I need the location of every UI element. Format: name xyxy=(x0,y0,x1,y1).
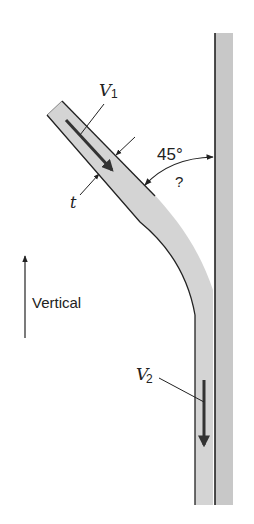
v2-label: V 2 xyxy=(136,364,153,386)
svg-text:?: ? xyxy=(175,173,183,190)
jet-deflection-diagram: V 1 t 45° ? Vertical V 2 xyxy=(0,0,254,524)
svg-text:45°: 45° xyxy=(157,145,183,164)
svg-text:Vertical: Vertical xyxy=(32,294,81,311)
svg-text:1: 1 xyxy=(111,87,118,101)
vertical-reference: Vertical xyxy=(25,256,81,338)
v1-label: V 1 xyxy=(99,80,118,101)
svg-text:2: 2 xyxy=(146,372,153,386)
angle-arc: 45° ? xyxy=(145,145,213,190)
wall xyxy=(215,33,233,505)
svg-text:t: t xyxy=(70,193,77,212)
